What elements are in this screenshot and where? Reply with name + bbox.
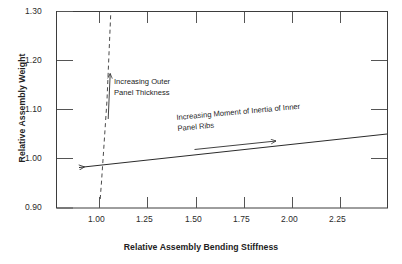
x-tick-label-2-25: 2.25 [329,214,346,224]
x-tick-label-1-50: 1.50 [185,214,202,224]
x-tick-label-1-75: 1.75 [233,214,250,224]
annotation-increasing-outer-panel-thickness: Increasing Outer Panel Thickness [114,76,170,98]
plot-canvas [0,0,402,264]
y-axis-title: Relative Assembly Weight [17,38,27,178]
x-tick-label-2-00: 2.00 [281,214,298,224]
x-axis-title: Relative Assembly Bending Stiffness [0,242,402,252]
x-tick-label-1-00: 1.00 [88,214,105,224]
y-tick-label-1-00: 1.00 [25,153,42,163]
chart-figure: 1.30 1.20 1.10 1.00 0.90 1.00 1.25 1.50 … [0,0,402,264]
x-tick-label-1-25: 1.25 [136,214,153,224]
y-tick-label-0-90: 0.90 [25,202,42,212]
annotation-outer-line1: Increasing Outer [114,76,170,87]
y-tick-label-1-10: 1.10 [25,104,42,114]
y-tick-label-1-30: 1.30 [25,6,42,16]
annotation-outer-line2: Panel Thickness [114,87,170,98]
y-tick-label-1-20: 1.20 [25,55,42,65]
